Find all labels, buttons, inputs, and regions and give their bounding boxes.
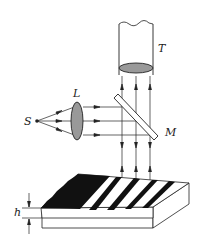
thickness-indicator (22, 193, 42, 234)
optics-diagram: T S L (0, 0, 203, 249)
label-thickness: h (14, 206, 21, 219)
lens-icon (71, 102, 83, 140)
label-telescope: T (158, 42, 167, 55)
label-lens: L (72, 87, 80, 100)
label-mirror: M (164, 126, 177, 139)
telescope-top-break (119, 21, 153, 26)
label-source: S (24, 115, 32, 128)
telescope (119, 21, 153, 76)
objective-lens-icon (119, 63, 153, 73)
air-wedge (41, 174, 189, 228)
